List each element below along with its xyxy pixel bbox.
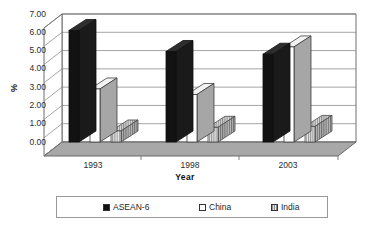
legend-label-china: China: [209, 203, 231, 212]
legend-item-china: China: [199, 197, 231, 217]
legend-swatch-asean6-icon: [103, 204, 110, 211]
x-tick-2003: 2003: [268, 160, 308, 170]
y-tick-5: 5.00: [12, 46, 46, 55]
legend-swatch-china-icon: [199, 204, 206, 211]
bar-chart: 7.00 6.00 5.00 4.00 3.00 2.00 1.00 0.00 …: [0, 0, 370, 231]
legend-item-asean6: ASEAN-6: [103, 197, 149, 217]
bar-asean6-2003: [263, 43, 290, 142]
chart-legend: ASEAN-6 China India: [56, 196, 328, 218]
x-axis-title: Year: [0, 172, 370, 182]
y-tick-7: 7.00: [12, 10, 46, 19]
chart-floor: [44, 142, 356, 156]
y-tick-6: 6.00: [12, 28, 46, 37]
y-tick-2: 2.00: [12, 101, 46, 110]
y-tick-0: 0.00: [12, 138, 46, 147]
legend-item-india: India: [271, 197, 299, 217]
x-tick-1993: 1993: [73, 160, 113, 170]
y-axis-title: %: [4, 80, 24, 96]
legend-label-india: India: [281, 203, 299, 212]
x-tick-1998: 1998: [170, 160, 210, 170]
legend-swatch-india-icon: [271, 204, 278, 211]
bar-asean6-1998: [166, 40, 193, 142]
y-tick-1: 1.00: [12, 119, 46, 128]
legend-label-asean6: ASEAN-6: [113, 203, 149, 212]
y-tick-4: 4.00: [12, 64, 46, 73]
bar-asean6-1993: [69, 19, 96, 142]
side-wall: [44, 14, 62, 156]
